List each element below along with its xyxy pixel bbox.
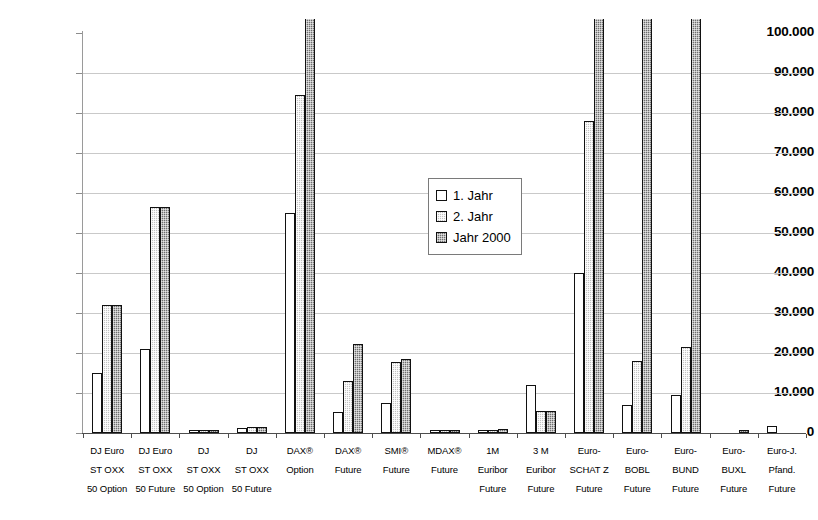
bar-series3 (546, 411, 556, 433)
x-axis-tick-mark (517, 434, 518, 438)
bar-series3 (353, 344, 363, 433)
x-axis-tick-mark (710, 434, 711, 438)
bar-series1 (671, 395, 681, 433)
x-axis-tick-mark (613, 434, 614, 438)
x-axis-tick-mark (179, 434, 180, 438)
bar-group (719, 33, 749, 433)
bar-group (671, 33, 701, 433)
legend-label-series3: Jahr 2000 (453, 230, 511, 245)
legend-item-series3: Jahr 2000 (436, 227, 511, 248)
bar-series2 (681, 347, 691, 433)
legend-swatch-series3-icon (436, 232, 447, 243)
legend-label-series2: 2. Jahr (453, 209, 493, 224)
legend-label-series1: 1. Jahr (453, 188, 493, 203)
x-axis-tick-mark (83, 434, 84, 438)
bar-series1 (622, 405, 632, 433)
x-axis-tick-mark (758, 434, 759, 438)
bar-series1 (381, 403, 391, 433)
bar-series1 (574, 273, 584, 433)
bar-series2 (150, 207, 160, 433)
y-axis-line (82, 31, 83, 434)
bar-series2 (536, 411, 546, 433)
bar-series1 (526, 385, 536, 433)
bar-group (333, 33, 363, 433)
x-axis-tick-mark (372, 434, 373, 438)
bar-series3 (642, 19, 652, 433)
x-axis-line (82, 433, 806, 434)
bar-group (381, 33, 411, 433)
legend-item-series2: 2. Jahr (436, 206, 511, 227)
x-axis-tick-mark (420, 434, 421, 438)
bar-series1 (285, 213, 295, 433)
x-axis-tick-mark (469, 434, 470, 438)
x-axis-tick-mark (324, 434, 325, 438)
bar-series1 (92, 373, 102, 433)
x-axis-tick-mark (276, 434, 277, 438)
legend-swatch-series1-icon (436, 190, 447, 201)
x-axis-tick-label: Euro-J.Pfand.Future (746, 441, 818, 498)
legend: 1. Jahr 2. Jahr Jahr 2000 (428, 178, 522, 255)
bar-series1 (333, 412, 343, 433)
bar-series3 (305, 19, 315, 433)
bar-series2 (343, 381, 353, 433)
bar-group (622, 33, 652, 433)
bar-series1 (767, 426, 777, 433)
bar-series3 (160, 207, 170, 433)
bar-group (92, 33, 122, 433)
bar-series2 (102, 305, 112, 433)
x-axis-tick-mark (131, 434, 132, 438)
x-axis-tick-mark (228, 434, 229, 438)
bar-series2 (584, 121, 594, 433)
legend-swatch-series2-icon (436, 211, 447, 222)
bar-series3 (401, 359, 411, 433)
bar-group (189, 33, 219, 433)
x-axis-tick-mark (565, 434, 566, 438)
x-axis-label-line: Euro-J. (746, 441, 818, 460)
bar-group (767, 33, 797, 433)
bar-series3 (112, 305, 122, 433)
x-axis-label-line: Pfand. (746, 460, 818, 479)
bar-series2 (632, 361, 642, 433)
bar-series2 (295, 95, 305, 433)
bar-series1 (140, 349, 150, 433)
x-axis-tick-mark (806, 434, 807, 438)
bar-group (285, 33, 315, 433)
legend-item-series1: 1. Jahr (436, 185, 511, 206)
bar-series3 (691, 19, 701, 433)
x-axis-tick-mark (661, 434, 662, 438)
bar-group (574, 33, 604, 433)
bar-group (140, 33, 170, 433)
bar-series2 (391, 362, 401, 433)
bar-group (526, 33, 556, 433)
bar-group (237, 33, 267, 433)
bar-series3 (594, 19, 604, 433)
x-axis-label-line: Future (746, 479, 818, 498)
